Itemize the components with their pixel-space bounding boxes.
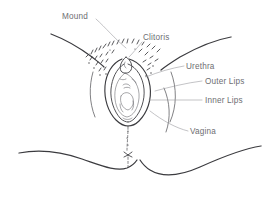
thigh-left-lower-line <box>19 151 137 169</box>
label-clitoris: Clitoris <box>143 33 169 42</box>
vestibule-shade-mark <box>120 79 126 80</box>
hair-mark <box>106 52 108 55</box>
hair-mark <box>150 56 153 58</box>
fourchette-mark <box>123 118 132 120</box>
inner-lip-right-contour <box>128 64 144 122</box>
hair-mark <box>137 40 139 44</box>
label-vagina: Vagina <box>190 127 216 136</box>
hair-dot <box>152 65 153 66</box>
urethral-opening-mark-2 <box>124 87 130 88</box>
groin-crease-right <box>170 72 175 122</box>
vestibule-contour <box>115 73 139 117</box>
vestibule-shade-mark-4 <box>120 104 123 112</box>
hair-mark <box>143 60 146 62</box>
diagram-canvas: Mound Clitoris Urethra Outer Lips Inner … <box>0 0 280 207</box>
perineum-dot <box>127 144 128 145</box>
hair-mark <box>101 60 103 63</box>
hair-dot <box>105 73 106 74</box>
hair-mark <box>148 63 151 65</box>
hair-mark <box>103 44 106 48</box>
perineum-dot <box>127 130 128 131</box>
outer-lips-leader-line-icon <box>155 81 202 91</box>
hair-mark <box>145 52 148 55</box>
hair-dot <box>93 67 94 68</box>
hair-mark <box>108 42 110 46</box>
clitoral-glans-mark <box>124 62 126 68</box>
groin-crease-right-outer <box>164 88 169 132</box>
clitoris-leader-line-icon <box>129 42 142 57</box>
perineum-dot <box>126 137 127 138</box>
anus-mark <box>128 152 132 155</box>
hair-mark <box>157 49 160 52</box>
hair-dot <box>109 49 110 50</box>
groin-crease-left <box>90 72 95 117</box>
mound-leader-line-icon <box>96 19 126 48</box>
anus-mark <box>124 152 128 155</box>
vaginal-opening-contour <box>120 93 133 110</box>
perineum-group <box>124 127 132 169</box>
hair-mark <box>155 59 158 61</box>
anus-mark <box>128 155 132 157</box>
hair-dot <box>88 62 89 63</box>
label-outer-lips: Outer Lips <box>205 77 245 86</box>
hair-mark <box>142 42 144 45</box>
hair-mark <box>90 57 92 60</box>
hair-mark <box>96 62 98 65</box>
hair-mark <box>122 39 124 43</box>
hair-mark <box>99 68 101 71</box>
hair-mark <box>112 50 114 53</box>
hair-mark <box>95 56 97 59</box>
vulva-structure-group <box>105 57 151 126</box>
hair-mark <box>112 41 114 45</box>
hair-mark <box>91 50 93 54</box>
label-mound: Mound <box>62 12 88 21</box>
hair-mark <box>95 48 97 52</box>
hair-mark <box>147 44 150 47</box>
hair-mark <box>132 39 134 43</box>
label-urethra: Urethra <box>186 62 215 71</box>
pubic-hair-texture <box>86 39 160 77</box>
hair-mark <box>127 39 128 43</box>
hair-mark <box>139 49 142 52</box>
hair-dot <box>99 74 100 75</box>
hair-mark <box>99 46 101 50</box>
hair-mark <box>106 59 108 62</box>
anus-mark <box>124 155 128 157</box>
label-inner-lips: Inner Lips <box>205 96 243 105</box>
hair-mark <box>152 46 155 49</box>
thigh-right-lower-line <box>140 146 261 175</box>
urethral-opening-mark <box>123 84 130 86</box>
hair-dot <box>150 72 151 73</box>
hair-mark <box>100 54 102 57</box>
anatomical-diagram: Mound Clitoris Urethra Outer Lips Inner … <box>0 0 280 207</box>
hair-mark <box>147 68 150 70</box>
vestibule-shade-mark-2 <box>132 79 136 83</box>
